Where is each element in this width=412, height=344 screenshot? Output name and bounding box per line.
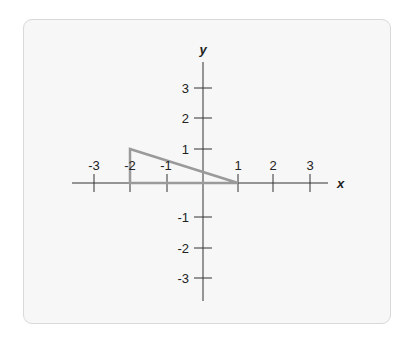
y-tick-label: 1 bbox=[182, 142, 189, 157]
x-tick-label: -1 bbox=[160, 158, 172, 173]
y-tick-label: -1 bbox=[177, 210, 189, 225]
y-tick-label: 3 bbox=[182, 81, 189, 96]
x-tick-label: 2 bbox=[269, 158, 276, 173]
y-tick-label: 2 bbox=[182, 111, 189, 126]
x-tick-label: 1 bbox=[234, 158, 241, 173]
x-tick-label: -2 bbox=[124, 158, 136, 173]
y-tick-label: -3 bbox=[177, 271, 189, 286]
coordinate-plane: -3 -2 -1 1 2 3 3 2 1 -1 -2 -3 x y bbox=[0, 0, 412, 344]
x-tick-label: 3 bbox=[306, 158, 313, 173]
x-tick-label: -3 bbox=[88, 158, 100, 173]
x-axis-label: x bbox=[336, 176, 345, 191]
y-tick-label: -2 bbox=[177, 241, 189, 256]
y-axis-label: y bbox=[198, 42, 207, 57]
